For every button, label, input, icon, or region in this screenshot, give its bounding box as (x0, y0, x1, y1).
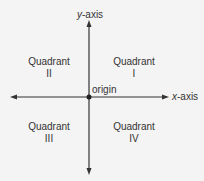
quadrant-iv: QuadrantIV (104, 121, 164, 145)
quadrant-i: QuadrantI (104, 56, 164, 80)
x-axis-arrow-right-icon (162, 95, 169, 100)
x-axis-arrow-left-icon (10, 95, 17, 100)
y-axis-arrow-up-icon (87, 20, 92, 27)
origin-label: origin (92, 84, 116, 96)
quadrant-ii: QuadrantII (19, 56, 79, 80)
y-axis-arrow-down-icon (87, 168, 92, 175)
quadrant-iii: QuadrantIII (19, 121, 79, 145)
origin-point (87, 95, 92, 100)
x-axis-label: x-axis (172, 91, 198, 103)
y-axis-label: y-axis (77, 9, 103, 21)
